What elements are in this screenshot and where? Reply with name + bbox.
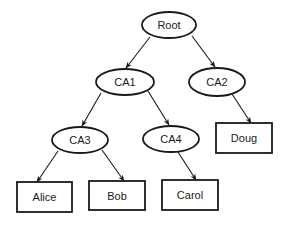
certificate-tree-diagram: RootCA1CA2CA3CA4AliceBobCarolDoug [0, 0, 287, 225]
node-root: Root [142, 12, 196, 38]
nodes-layer: RootCA1CA2CA3CA4AliceBobCarolDoug [17, 12, 272, 212]
node-carol: Carol [162, 180, 218, 210]
edge-ca3-to-bob [102, 150, 124, 181]
node-ca3: CA3 [52, 127, 108, 153]
node-label: Alice [33, 191, 57, 203]
node-alice: Alice [17, 182, 72, 212]
node-label: CA2 [206, 76, 227, 88]
edge-ca4-to-carol [178, 152, 196, 180]
node-label: Doug [231, 132, 257, 144]
edge-root-to-ca2 [192, 36, 215, 67]
node-ca4: CA4 [143, 126, 199, 152]
node-doug: Doug [216, 123, 272, 153]
edge-ca1-to-ca4 [148, 91, 169, 125]
node-label: Root [157, 19, 180, 31]
node-label: Bob [107, 190, 127, 202]
edge-ca3-to-alice [37, 151, 58, 182]
node-bob: Bob [89, 181, 145, 210]
node-ca1: CA1 [96, 69, 154, 95]
node-label: CA3 [69, 134, 90, 146]
edge-ca1-to-ca3 [82, 93, 101, 126]
node-ca2: CA2 [189, 68, 245, 96]
node-label: CA4 [160, 133, 181, 145]
edge-root-to-ca1 [126, 37, 150, 68]
node-label: CA1 [114, 76, 135, 88]
edge-ca2-to-doug [232, 94, 251, 123]
node-label: Carol [177, 189, 203, 201]
edges-layer [37, 36, 251, 182]
